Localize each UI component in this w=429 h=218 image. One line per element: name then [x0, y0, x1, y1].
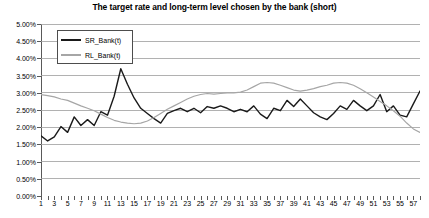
y-tick-label: 4.00%	[0, 55, 36, 62]
y-tick-label: 2.00%	[0, 124, 36, 131]
y-tick-label: 0.50%	[0, 175, 36, 182]
series-lines	[41, 50, 420, 151]
x-tick-label: 57	[404, 200, 422, 207]
y-tick-label: 0.00%	[0, 193, 36, 200]
y-tick-label: 5.00%	[0, 21, 36, 28]
y-tick-label: 1.50%	[0, 141, 36, 148]
y-tick-label: 3.50%	[0, 72, 36, 79]
legend-entry-1: RL_Bank(t)	[61, 48, 120, 62]
legend-label-0: SR_Bank(t)	[85, 37, 121, 44]
chart-title: The target rate and long-term level chos…	[0, 2, 429, 12]
legend-label-1: RL_Bank(t)	[85, 52, 120, 59]
line-chart: The target rate and long-term level chos…	[0, 0, 429, 218]
y-tick-label: 1.00%	[0, 158, 36, 165]
y-tick-label: 3.00%	[0, 89, 36, 96]
legend-swatch-0	[61, 39, 81, 40]
chart-legend: SR_Bank(t)RL_Bank(t)	[57, 30, 133, 64]
y-tick-label: 4.50%	[0, 38, 36, 45]
legend-swatch-1	[61, 54, 81, 55]
y-tick-label: 2.50%	[0, 107, 36, 114]
legend-entry-0: SR_Bank(t)	[61, 33, 121, 47]
